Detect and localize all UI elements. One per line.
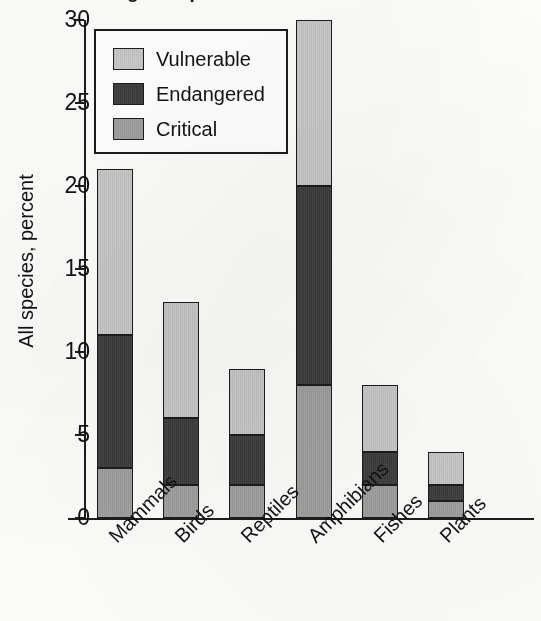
bar-segment-amphibians-vulnerable[interactable]: [296, 20, 332, 186]
bar-amphibians[interactable]: [296, 20, 332, 518]
bar-segment-texture: [164, 303, 198, 417]
bar-segment-texture: [429, 453, 463, 484]
legend-swatch-texture: [114, 119, 143, 139]
bar-segment-amphibians-critical[interactable]: [296, 385, 332, 518]
bar-segment-fishes-vulnerable[interactable]: [362, 385, 398, 451]
legend-item-vulnerable[interactable]: Vulnerable: [113, 44, 251, 74]
bar-segment-texture: [429, 486, 463, 501]
bar-segment-reptiles-vulnerable[interactable]: [229, 369, 265, 435]
bar-segment-texture: [363, 386, 397, 450]
legend-item-endangered[interactable]: Endangered: [113, 79, 265, 109]
bar-segment-amphibians-endangered[interactable]: [296, 186, 332, 385]
bar-segment-texture: [98, 170, 132, 334]
legend-swatch-vulnerable: [113, 48, 144, 70]
bar-segment-texture: [297, 386, 331, 517]
bar-segment-texture: [230, 370, 264, 434]
bar-segment-plants-vulnerable[interactable]: [428, 452, 464, 485]
bar-segment-mammals-endangered[interactable]: [97, 335, 133, 468]
bar-segment-texture: [98, 336, 132, 467]
legend-item-critical[interactable]: Critical: [113, 114, 217, 144]
legend-label-vulnerable: Vulnerable: [156, 49, 251, 69]
bar-plants[interactable]: [428, 20, 464, 518]
bar-segment-reptiles-endangered[interactable]: [229, 435, 265, 485]
bar-fishes[interactable]: [362, 20, 398, 518]
legend-swatch-texture: [114, 84, 143, 104]
bar-segment-birds-vulnerable[interactable]: [163, 302, 199, 418]
bar-segment-mammals-vulnerable[interactable]: [97, 169, 133, 335]
bar-segment-texture: [297, 21, 331, 185]
bar-segment-texture: [230, 436, 264, 484]
figure-canvas: Percentage of species threatened with ex…: [0, 0, 541, 621]
legend-swatch-endangered: [113, 83, 144, 105]
chart-legend: VulnerableEndangeredCritical: [94, 29, 288, 154]
bar-segment-texture: [297, 187, 331, 384]
legend-label-endangered: Endangered: [156, 84, 265, 104]
legend-label-critical: Critical: [156, 119, 217, 139]
legend-swatch-critical: [113, 118, 144, 140]
bar-segment-plants-endangered[interactable]: [428, 485, 464, 502]
legend-swatch-texture: [114, 49, 143, 69]
